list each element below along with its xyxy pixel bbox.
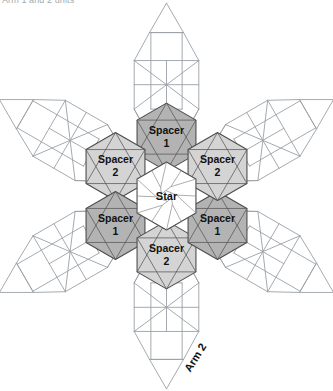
spacer-label-line1: Spacer	[200, 212, 235, 224]
diagram-page: Arm 1 and 2 units Spacer1Spacer2Spacer1S…	[0, 0, 333, 391]
spacer-label-line1: Spacer	[149, 242, 184, 254]
spacer-label-line2: 2	[113, 166, 119, 178]
spacer-label-line1: Spacer	[98, 212, 133, 224]
star-block-figure: Spacer1Spacer2Spacer1Spacer2Spacer1Space…	[0, 0, 333, 391]
spacer-label-line1: Spacer	[98, 153, 133, 165]
spacer-label-line1: Spacer	[149, 124, 184, 136]
spacer-label-line2: 1	[113, 225, 119, 237]
spacer-label-line2: 1	[164, 137, 170, 149]
spacer-label-line2: 1	[215, 225, 221, 237]
star-label: Star	[156, 190, 178, 202]
arm-label: Arm 2	[182, 341, 209, 374]
star-block-svg: Spacer1Spacer2Spacer1Spacer2Spacer1Space…	[0, 0, 333, 391]
spacer-label-line1: Spacer	[200, 153, 235, 165]
spacer-label-line2: 2	[164, 255, 170, 267]
spacer-label-line2: 2	[215, 166, 221, 178]
